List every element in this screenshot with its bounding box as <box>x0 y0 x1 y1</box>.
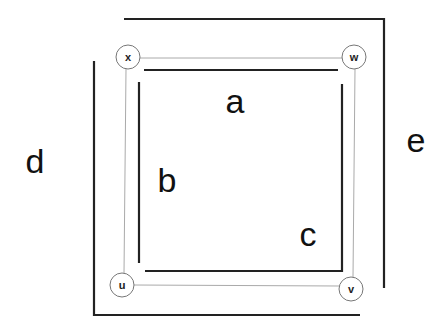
path-label-d: d <box>26 142 45 180</box>
node-x: x <box>116 45 140 69</box>
edge-w-v <box>353 69 355 277</box>
graph-diagram: x w u v a b c d e <box>0 0 446 332</box>
node-v: v <box>339 277 363 301</box>
node-w-label: w <box>349 51 359 63</box>
edge-u-v <box>134 285 339 286</box>
edge-x-u <box>124 69 126 273</box>
node-v-label: v <box>348 283 355 295</box>
path-label-a: a <box>226 82 245 120</box>
node-u-label: u <box>119 279 126 291</box>
path-label-c: c <box>300 215 317 253</box>
node-w: w <box>342 45 366 69</box>
node-u: u <box>110 273 134 297</box>
node-x-label: x <box>125 51 132 63</box>
path-label-e: e <box>407 121 426 159</box>
path-label-b: b <box>158 161 177 199</box>
